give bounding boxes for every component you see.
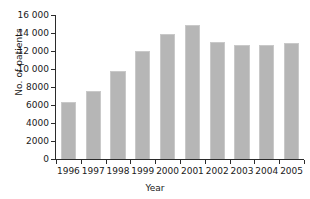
x-axis-title: Year [0,183,310,193]
x-tick-label: 2000 [156,166,179,176]
y-tick-label: 16 000 [18,10,50,20]
x-tick-mark [279,160,280,164]
x-tick-mark [106,160,107,164]
y-tick-mark [51,123,55,124]
bar [259,45,274,159]
bar [110,71,125,159]
bar-series [56,15,304,159]
x-tick-label: 2002 [206,166,229,176]
bar [185,25,200,159]
x-tick-mark [230,160,231,164]
y-tick-mark [51,69,55,70]
bar-chart: No. of patients 0200040006000800010 0001… [0,0,310,199]
x-tick-mark [56,160,57,164]
x-tick-label: 1999 [131,166,154,176]
y-tick-label: 2000 [26,136,49,146]
y-tick-label: 4000 [26,118,49,128]
x-tick-label: 1998 [107,166,130,176]
y-tick-label: 14 000 [18,28,50,38]
x-tick-mark [180,160,181,164]
y-tick-mark [51,141,55,142]
bar [160,34,175,159]
y-tick-mark [51,15,55,16]
y-tick-label: 8000 [26,82,49,92]
x-tick-label: 1996 [57,166,80,176]
x-tick-mark [254,160,255,164]
y-tick-mark [51,87,55,88]
y-tick-mark [51,51,55,52]
x-tick-label: 2001 [181,166,204,176]
bar [284,43,299,159]
y-tick-label: 0 [43,154,49,164]
y-tick-mark [51,159,55,160]
y-tick-label: 10 000 [18,64,50,74]
plot-area: 0200040006000800010 00012 00014 00016 00… [55,15,303,159]
y-axis-title: No. of patients [14,2,24,122]
x-tick-label: 1997 [82,166,105,176]
y-tick-label: 6000 [26,100,49,110]
bar [86,91,101,159]
x-tick-label: 2005 [280,166,303,176]
x-tick-label: 2004 [255,166,278,176]
y-tick-label: 12 000 [18,46,50,56]
x-tick-mark [304,160,305,164]
bar [234,45,249,159]
bar [135,51,150,159]
bar [210,42,225,159]
x-tick-mark [205,160,206,164]
y-tick-mark [51,33,55,34]
bar [61,102,76,159]
x-tick-mark [81,160,82,164]
x-tick-label: 2003 [231,166,254,176]
x-tick-mark [130,160,131,164]
y-tick-mark [51,105,55,106]
x-tick-mark [155,160,156,164]
